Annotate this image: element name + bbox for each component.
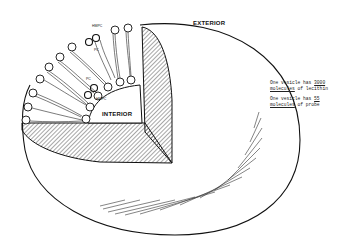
probe-label-hmpc-bottom: HMPC [96, 97, 106, 101]
interior-label: INTERIOR [102, 111, 132, 117]
probe-label-pc-bottom: PC [86, 77, 91, 81]
hatched-cut-face-bottom [22, 123, 172, 163]
probe-label-pc-top: PC [94, 48, 99, 52]
note-probe: One vesicle has 55 molecules of probe [270, 96, 320, 107]
probe-label-hmpc-top: HMPC [92, 24, 102, 28]
note-lecithin: One vesicle has 3000 molecules of lecith… [270, 80, 328, 91]
vesicle-diagram [0, 0, 347, 241]
exterior-label: EXTERIOR [193, 20, 225, 26]
probe-molecule-upper [86, 35, 100, 46]
